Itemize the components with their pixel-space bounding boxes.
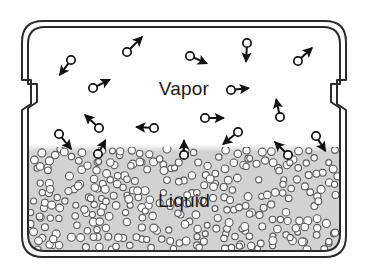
- liquid-molecule: [84, 162, 91, 169]
- liquid-molecule: [332, 229, 339, 236]
- liquid-molecule: [35, 237, 43, 245]
- liquid-molecule: [167, 237, 174, 244]
- liquid-molecule: [149, 212, 157, 220]
- liquid-molecule: [269, 159, 277, 167]
- liquid-molecule: [268, 201, 275, 208]
- liquid-molecule: [78, 149, 86, 157]
- liquid-molecule: [93, 167, 100, 174]
- liquid-molecule: [120, 184, 126, 190]
- liquid-molecule: [284, 217, 291, 224]
- liquid-molecule: [204, 222, 210, 228]
- liquid-molecule: [47, 186, 54, 193]
- liquid-molecule: [259, 223, 266, 230]
- vapor-molecule-circle: [201, 114, 209, 122]
- vapor-molecule-circle: [150, 124, 158, 132]
- liquid-molecule: [136, 158, 144, 166]
- liquid-molecule: [288, 185, 295, 192]
- liquid-molecule: [81, 206, 88, 213]
- liquid-molecule: [87, 195, 94, 202]
- liquid-molecule: [188, 172, 195, 179]
- liquid-molecule: [176, 178, 183, 185]
- liquid-molecule: [287, 160, 293, 166]
- liquid-molecule: [73, 202, 79, 208]
- vapor-molecule-circle: [186, 52, 194, 60]
- liquid-molecule: [277, 216, 284, 223]
- liquid-molecule: [114, 234, 122, 242]
- liquid-molecule: [74, 222, 80, 228]
- vapor-molecule-circle: [55, 130, 63, 138]
- liquid-molecule: [49, 235, 56, 242]
- liquid-molecule: [31, 198, 37, 204]
- liquid-molecule: [243, 147, 250, 154]
- liquid-molecule: [142, 208, 148, 214]
- liquid-molecule: [317, 185, 325, 193]
- liquid-molecule: [91, 184, 99, 192]
- liquid-molecule: [89, 212, 95, 218]
- liquid-molecule: [134, 187, 142, 195]
- liquid-molecule: [38, 149, 46, 157]
- liquid-molecule: [322, 219, 330, 227]
- liquid-molecule: [269, 237, 277, 245]
- liquid-molecule: [172, 165, 178, 171]
- liquid-molecule: [113, 243, 120, 250]
- liquid-molecule: [139, 214, 146, 221]
- liquid-molecule: [224, 207, 230, 213]
- liquid-molecule: [329, 165, 337, 173]
- liquid-molecule: [82, 244, 89, 251]
- liquid-molecule: [210, 195, 217, 202]
- liquid-molecule: [305, 172, 312, 179]
- liquid-molecule: [246, 233, 253, 240]
- liquid-molecule: [230, 159, 238, 167]
- liquid-molecule: [295, 165, 302, 172]
- liquid-molecule: [332, 191, 339, 198]
- velocity-arrow-icon: [246, 47, 247, 61]
- liquid-molecule: [102, 224, 109, 231]
- liquid-molecule: [76, 158, 83, 165]
- liquid-label: Liquid: [158, 190, 210, 211]
- liquid-molecule: [36, 213, 43, 220]
- liquid-molecule: [282, 209, 289, 216]
- liquid-molecule: [285, 195, 292, 202]
- liquid-molecule: [146, 151, 153, 158]
- liquid-molecule: [224, 176, 232, 184]
- liquid-molecule: [221, 165, 229, 173]
- liquid-molecule: [314, 224, 321, 231]
- liquid-molecule: [144, 236, 150, 242]
- liquid-molecule: [123, 218, 130, 225]
- vapor-molecule-circle: [227, 86, 235, 94]
- liquid-molecule: [271, 189, 279, 197]
- liquid-molecule: [216, 154, 222, 160]
- liquid-molecule: [96, 218, 104, 226]
- liquid-molecule: [206, 175, 214, 183]
- liquid-molecule: [97, 209, 104, 216]
- liquid-molecule: [48, 201, 56, 209]
- liquid-molecule: [192, 211, 200, 219]
- liquid-molecule: [296, 217, 303, 224]
- liquid-molecule: [65, 188, 72, 195]
- liquid-molecule: [313, 232, 320, 239]
- liquid-molecule: [306, 148, 312, 154]
- liquid-molecule: [315, 198, 322, 205]
- liquid-molecule: [228, 244, 234, 250]
- liquid-molecule: [301, 183, 308, 190]
- liquid-molecule: [256, 177, 262, 183]
- liquid-molecule: [72, 213, 79, 220]
- liquid-molecule: [280, 181, 286, 187]
- liquid-molecule: [107, 159, 114, 166]
- liquid-molecule: [74, 182, 82, 190]
- vapor-molecule-circle: [284, 151, 292, 159]
- velocity-arrow-icon: [235, 88, 248, 89]
- liquid-molecule: [141, 187, 149, 195]
- liquid-molecule: [31, 156, 39, 164]
- liquid-molecule: [244, 193, 252, 201]
- liquid-molecule: [127, 242, 133, 248]
- liquid-molecule: [90, 175, 97, 182]
- liquid-molecule: [331, 181, 337, 187]
- liquid-molecule: [221, 235, 227, 241]
- liquid-molecule: [246, 211, 253, 218]
- liquid-molecule: [298, 238, 306, 246]
- vapor-molecule-circle: [312, 132, 320, 140]
- liquid-molecule: [175, 210, 181, 216]
- liquid-molecule: [107, 177, 113, 183]
- liquid-molecule: [326, 160, 332, 166]
